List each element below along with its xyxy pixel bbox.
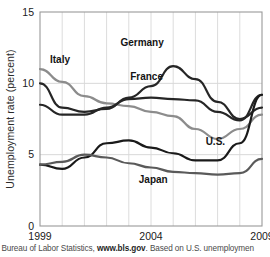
source-note-prefix: rce: Bureau of Labor Statistics, <box>0 244 97 253</box>
series-label-italy: Italy <box>50 54 70 65</box>
y-tick-label: 15 <box>22 6 34 18</box>
x-axis-tick-labels: 199920042009 <box>28 230 270 242</box>
series-label-us: U.S. <box>206 136 226 147</box>
bls-website-link[interactable]: www.bls.gov <box>97 244 146 253</box>
source-note: rce: Bureau of Labor Statistics, www.bls… <box>0 244 270 253</box>
y-tick-label: 10 <box>22 77 34 89</box>
series-label-germany: Germany <box>120 37 164 48</box>
chart-figure: ItalyGermanyFranceU.S.Japan 051015 19992… <box>0 0 270 257</box>
unemployment-line-chart: ItalyGermanyFranceU.S.Japan 051015 19992… <box>0 0 270 257</box>
x-tick-label: 2009 <box>250 230 270 242</box>
x-tick-label: 1999 <box>28 230 52 242</box>
y-tick-label: 5 <box>28 148 34 160</box>
series-label-japan: Japan <box>139 174 168 185</box>
x-tick-label: 2004 <box>139 230 163 242</box>
y-axis-title: Unemployment rate (percent) <box>4 49 16 188</box>
series-label-france: France <box>130 71 163 82</box>
y-axis-tick-labels: 051015 <box>22 6 34 232</box>
source-note-suffix: . Based on U.S. unemploymen <box>146 244 254 253</box>
